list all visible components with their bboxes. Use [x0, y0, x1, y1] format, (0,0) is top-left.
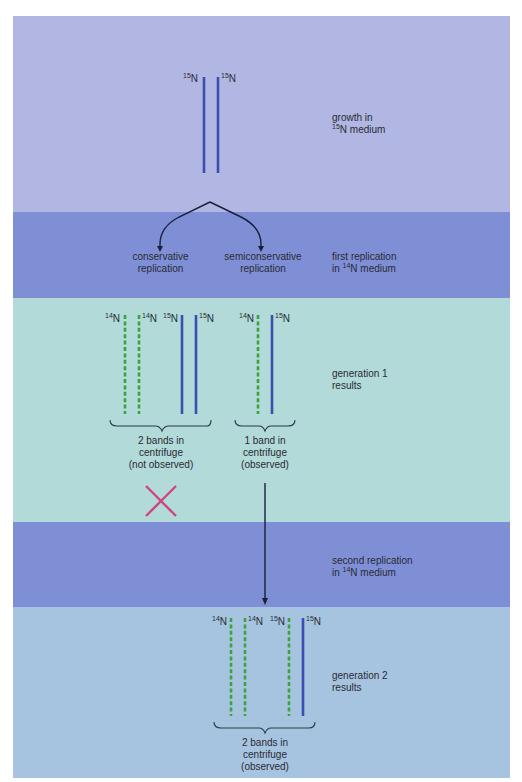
- gen1-semiconservative-dna: [258, 315, 272, 414]
- brace-gen2: [214, 722, 315, 733]
- result-gen1-conservative: 2 bands in centrifuge (not observed): [113, 435, 209, 471]
- label-gen1-semi-15N: 15N: [275, 313, 290, 325]
- stage-label-generation-1: generation 1 results: [332, 368, 388, 392]
- stage-label-second-replication: second replication in 14N medium: [332, 555, 413, 579]
- label-conservative-replication: conservative replication: [123, 251, 198, 275]
- label-gen1-cons-14N-2: 14N: [142, 313, 157, 325]
- label-gen2-14N-2: 14N: [248, 616, 263, 628]
- stage-label-growth: growth in 15N medium: [332, 112, 385, 136]
- label-gen1-cons-15N-1: 15N: [163, 313, 178, 325]
- label-semiconservative-replication: semiconservative replication: [213, 251, 313, 275]
- label-gen2-15N-2: 15N: [306, 616, 321, 628]
- result-gen2: 2 bands in centrifuge (observed): [225, 737, 305, 773]
- label-gen1-semi-14N: 14N: [239, 313, 254, 325]
- brace-gen1-conservative: [110, 420, 211, 431]
- result-gen1-semiconservative: 1 band in centrifuge (observed): [225, 435, 305, 471]
- rejected-cross-icon: [146, 486, 176, 516]
- gen1-conservative-dna: [125, 315, 196, 414]
- label-gen1-cons-14N-1: 14N: [105, 313, 120, 325]
- stage-label-generation-2: generation 2 results: [332, 670, 388, 694]
- brace-gen1-semiconservative: [235, 420, 295, 431]
- label-parent-15N-left: 15N: [183, 73, 198, 85]
- diagram-graphics: [13, 16, 510, 778]
- stage-label-first-replication: first replication in 14N medium: [332, 251, 396, 275]
- label-gen1-cons-15N-2: 15N: [199, 313, 214, 325]
- diagram-panel: 15N 15N 14N 14N 15N 15N 14N 15N 14N 14N …: [13, 16, 510, 778]
- label-gen2-15N-1: 15N: [270, 616, 285, 628]
- gen2-dna: [231, 618, 303, 716]
- arrow-head-gen2: [262, 598, 268, 605]
- label-gen2-14N-1: 14N: [212, 616, 227, 628]
- label-parent-15N-right: 15N: [221, 73, 236, 85]
- branch-arrows: [160, 202, 261, 247]
- parent-dna: [204, 77, 218, 173]
